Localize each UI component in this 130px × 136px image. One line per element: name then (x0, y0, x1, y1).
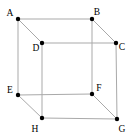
vertex-label-H: H (32, 124, 39, 134)
vertex-label-C: C (119, 42, 125, 52)
cube-edge-B-C (92, 19, 116, 43)
cube-edge-A-D (18, 19, 42, 43)
vertex-dot-E (16, 93, 20, 97)
vertex-label-E: E (7, 85, 13, 95)
cube-edge-C-G (116, 43, 117, 119)
vertex-dot-D (40, 41, 44, 45)
cube-edge-E-H (18, 95, 42, 118)
cube-figure: ABCDEFGH (0, 0, 130, 136)
cube-diagram: ABCDEFGH (0, 0, 130, 136)
vertex-label-F: F (96, 83, 101, 93)
cube-edge-E-F (18, 94, 92, 95)
vertex-dot-C (114, 41, 118, 45)
vertex-label-B: B (94, 7, 100, 17)
vertex-label-A: A (7, 8, 14, 18)
cube-edge-G-H (42, 118, 117, 119)
vertex-dot-G (115, 117, 119, 121)
vertex-dot-F (90, 92, 94, 96)
vertex-label-G: G (119, 124, 126, 134)
vertex-dot-B (90, 17, 94, 21)
vertex-dot-H (40, 116, 44, 120)
vertex-label-D: D (33, 43, 40, 53)
vertex-dot-A (16, 17, 20, 21)
cube-edge-F-G (92, 94, 117, 119)
